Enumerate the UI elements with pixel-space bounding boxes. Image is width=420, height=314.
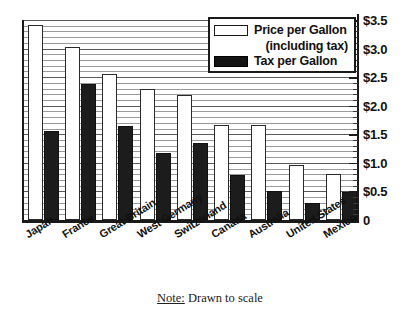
bar-price-per-gallon: [65, 47, 80, 220]
y-axis-tick: [353, 209, 358, 210]
y-axis-label: $3.0: [363, 41, 387, 56]
chart-note: Note: Drawn to scale: [0, 291, 420, 306]
y-axis-tick: [353, 157, 358, 158]
y-axis-label: $2.0: [363, 98, 387, 113]
y-axis-tick: [349, 134, 358, 136]
y-axis-tick: [349, 163, 358, 165]
y-axis-tick: [353, 180, 358, 181]
bar-group: [65, 20, 96, 220]
bar-group: [177, 20, 208, 220]
legend-entry-price: Price per Gallon: [214, 22, 350, 38]
y-axis-tick: [353, 100, 358, 101]
y-axis-tick: [353, 146, 358, 147]
y-axis-tick: [353, 169, 358, 170]
bar-tax-per-gallon: [81, 84, 96, 220]
bar-price-per-gallon: [28, 25, 43, 220]
note-label: Note:: [157, 291, 185, 305]
bar-tax-per-gallon: [118, 126, 133, 220]
y-axis-label: $0.5: [363, 184, 387, 199]
y-axis-tick: [353, 129, 358, 130]
y-axis-tick: [353, 203, 358, 204]
y-axis-tick: [353, 83, 358, 84]
bar-price-per-gallon: [251, 125, 266, 220]
y-axis-tick: [353, 174, 358, 175]
y-axis-tick: [353, 151, 358, 152]
chart-legend: Price per Gallon (including tax) Tax per…: [208, 17, 356, 73]
y-axis-label: $3.5: [363, 13, 387, 28]
x-axis-category-labels: JapanFranceGreat BritainWest GermanySwit…: [0, 222, 420, 292]
fuel-price-bar-chart: 0$0.5$1.0$1.5$2.0$2.5$3.0$3.5 Price per …: [0, 0, 420, 314]
y-axis-tick: [349, 77, 358, 79]
y-axis-tick: [349, 106, 358, 108]
bar-price-per-gallon: [289, 165, 304, 220]
y-axis-tick: [353, 197, 358, 198]
legend-entry-price-sub: (including tax): [214, 38, 350, 53]
y-axis-tick: [349, 191, 358, 193]
y-axis-tick: [353, 117, 358, 118]
note-text: Drawn to scale: [185, 291, 263, 305]
y-axis-label: $1.5: [363, 127, 387, 142]
legend-swatch-tax-icon: [214, 56, 248, 67]
legend-label-price: Price per Gallon: [254, 23, 347, 37]
legend-entry-tax: Tax per Gallon: [214, 53, 350, 69]
y-axis-tick: [353, 94, 358, 95]
y-axis-tick: [353, 89, 358, 90]
y-axis-tick: [353, 111, 358, 112]
bar-price-per-gallon: [102, 74, 117, 220]
y-axis-tick: [353, 123, 358, 124]
bar-group: [28, 20, 59, 220]
bar-group: [140, 20, 171, 220]
bar-tax-per-gallon: [44, 131, 59, 220]
y-axis-label: $1.0: [363, 155, 387, 170]
y-axis-label: $2.5: [363, 70, 387, 85]
y-axis-tick: [353, 140, 358, 141]
y-axis-tick: [353, 186, 358, 187]
legend-label-price-sub: (including tax): [266, 39, 348, 53]
legend-label-tax: Tax per Gallon: [254, 54, 337, 68]
bar-group: [102, 20, 133, 220]
legend-swatch-price-icon: [214, 25, 248, 36]
